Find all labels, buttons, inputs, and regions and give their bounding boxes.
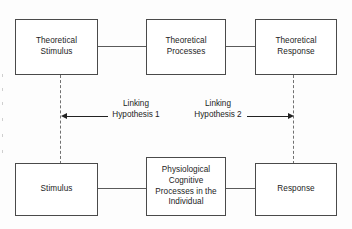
box-theoretical-processes-label: Theoretical Processes — [165, 36, 206, 57]
scan-artifact — [2, 74, 3, 77]
box-theoretical-stimulus-label: Theoretical Stimulus — [36, 36, 77, 57]
box-theoretical-stimulus: Theoretical Stimulus — [15, 19, 98, 75]
box-stimulus: Stimulus — [15, 163, 98, 216]
box-response-label: Response — [277, 184, 314, 195]
linking-hypothesis-1-arrow-line — [66, 116, 108, 117]
scan-artifact — [2, 118, 3, 121]
scan-artifact — [2, 150, 3, 153]
box-theoretical-processes: Theoretical Processes — [146, 19, 226, 75]
dashed-link-right — [293, 75, 294, 164]
linking-hypothesis-1-label: Linking Hypothesis 1 — [104, 99, 168, 120]
arrow-right-icon — [288, 113, 294, 119]
scan-artifact — [2, 134, 3, 137]
box-theoretical-response: Theoretical Response — [255, 19, 337, 75]
connector-stimulus-to-physiological — [97, 188, 147, 189]
box-stimulus-label: Stimulus — [41, 184, 73, 195]
diagram-canvas: Linking Hypothesis 1 Linking Hypothesis … — [0, 0, 352, 229]
linking-hypothesis-2-label: Linking Hypothesis 2 — [186, 99, 250, 120]
connector-theoretical-stimulus-to-processes — [97, 46, 147, 47]
box-physiological-cognitive-processes: Physiological Cognitive Processes in the… — [146, 157, 226, 216]
dashed-link-left — [60, 75, 61, 164]
scan-artifact — [2, 102, 3, 105]
box-response: Response — [255, 163, 337, 216]
box-physiological-label: Physiological Cognitive Processes in the… — [155, 165, 216, 207]
linking-hypothesis-2-arrow-line — [247, 116, 290, 117]
connector-theoretical-processes-to-response — [225, 46, 256, 47]
connector-physiological-to-response — [225, 188, 256, 189]
box-theoretical-response-label: Theoretical Response — [275, 36, 316, 57]
arrow-left-icon — [61, 113, 67, 119]
scan-artifact — [2, 88, 3, 91]
